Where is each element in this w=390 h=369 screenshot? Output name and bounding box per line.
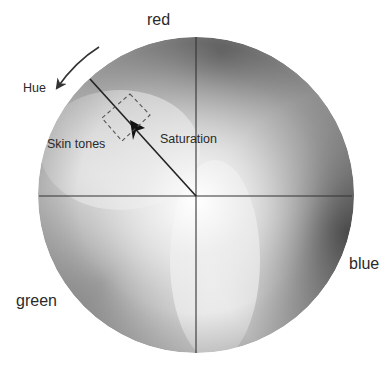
label-red: red — [147, 12, 170, 28]
label-blue: blue — [349, 256, 379, 272]
label-skin-tones: Skin tones — [47, 138, 105, 151]
label-saturation: Saturation — [160, 133, 217, 146]
label-green: green — [16, 293, 57, 309]
color-wheel-diagram — [0, 0, 390, 369]
label-hue: Hue — [23, 82, 46, 95]
